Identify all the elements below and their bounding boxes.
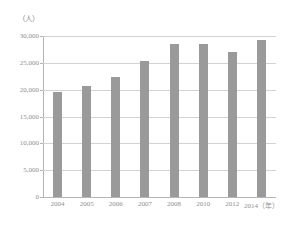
y-axis-tick-mark: [40, 90, 43, 91]
y-axis-tick-label: 10,000: [20, 139, 39, 147]
bar-chart-figure: （人） 05,00010,00015,00020,00025,00030,000…: [0, 0, 283, 228]
y-axis-tick-label: 15,000: [20, 113, 39, 121]
y-axis-tick-mark: [40, 197, 43, 198]
y-axis-tick-label: 20,000: [20, 86, 39, 94]
gridline: [43, 63, 276, 64]
gridline: [43, 143, 276, 144]
x-axis-tick-label: 2012: [225, 200, 239, 208]
bar: [53, 92, 62, 197]
bar: [82, 86, 91, 197]
y-axis-tick-label: 30,000: [20, 32, 39, 40]
y-axis-tick-label: 0: [36, 193, 40, 201]
y-axis-tick-label: 25,000: [20, 59, 39, 67]
bar: [257, 40, 266, 197]
x-axis-tick-label: 2004: [51, 200, 65, 208]
bar: [140, 61, 149, 197]
bar: [228, 52, 237, 197]
y-axis-tick-label: 5,000: [23, 166, 39, 174]
axis-baseline: [43, 197, 276, 198]
y-axis-tick-mark: [40, 170, 43, 171]
bar: [170, 44, 179, 197]
gridline: [43, 170, 276, 171]
x-axis-tick-label: 2010: [196, 200, 210, 208]
gridline: [43, 117, 276, 118]
y-axis-tick-mark: [40, 36, 43, 37]
plot-area: [43, 36, 276, 197]
x-axis-tick-label: 2014（年）: [244, 200, 279, 210]
bar: [199, 44, 208, 197]
y-axis-tick-mark: [40, 63, 43, 64]
y-axis-tick-label-group: 05,00010,00015,00020,00025,00030,000: [0, 0, 39, 228]
x-axis-tick-label: 2005: [80, 200, 94, 208]
y-axis-tick-mark: [40, 117, 43, 118]
x-axis-tick-label: 2006: [109, 200, 123, 208]
y-axis-tick-mark: [40, 143, 43, 144]
x-axis-tick-label-group: 20042005200620072008201020122014（年）: [43, 200, 276, 214]
gridline: [43, 36, 276, 37]
x-axis-tick-label: 2007: [138, 200, 152, 208]
bar: [111, 77, 120, 197]
gridline: [43, 90, 276, 91]
x-axis-tick-label: 2008: [167, 200, 181, 208]
